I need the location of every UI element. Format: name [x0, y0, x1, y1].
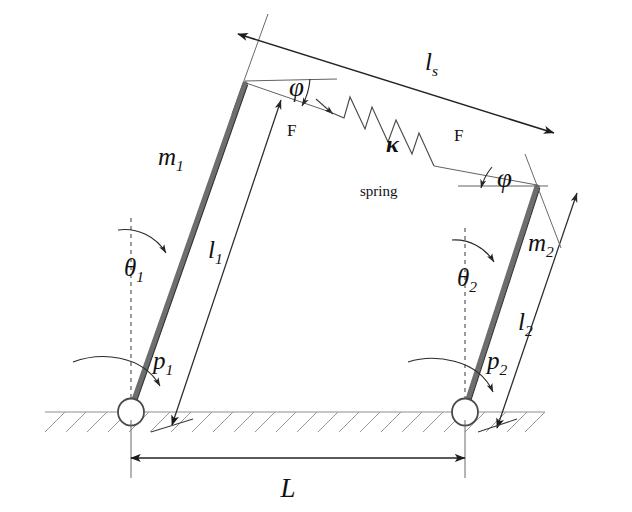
L-dimension-group: L — [131, 420, 465, 503]
spring-coil — [330, 97, 434, 166]
rod-left — [131, 84, 245, 409]
ls-extension-left — [232, 14, 268, 114]
rod-left-edge — [134, 85, 248, 410]
force-left-label: F — [287, 121, 296, 140]
spring-connector-left — [246, 83, 330, 112]
diagram-canvas: θ1 p1 m1 l1 — [0, 0, 632, 512]
phi-right-arc — [481, 167, 492, 188]
p2-label: p2 — [485, 347, 508, 378]
theta1-arc — [118, 230, 166, 253]
theta1-label: θ1 — [124, 254, 144, 285]
pendulum-spring-figure: θ1 p1 m1 l1 — [0, 0, 632, 512]
phi-angle-group: φ φ — [289, 72, 512, 193]
phi-right-label: φ — [497, 163, 512, 193]
spring-word-label: spring — [360, 183, 398, 199]
spring-constant-label: κ — [386, 131, 400, 157]
l2-label: l2 — [518, 308, 533, 339]
theta2-label: θ2 — [457, 264, 477, 295]
m1-label: m1 — [158, 143, 184, 174]
L-label: L — [279, 473, 295, 503]
l1-tick-bottom — [151, 419, 193, 432]
p1-label: p1 — [151, 347, 173, 378]
force-right-label: F — [454, 126, 463, 145]
ls-label: ls — [425, 48, 438, 79]
right-pendulum-group: θ2 p2 m2 l2 — [408, 154, 577, 432]
theta2-arc — [452, 240, 494, 262]
phi-left-label: φ — [289, 72, 304, 102]
l1-dimension-arrow — [172, 100, 281, 425]
l1-label: l1 — [208, 236, 223, 267]
m2-label: m2 — [528, 229, 554, 260]
ls-dimension-arrow — [238, 34, 554, 133]
ls-dimension-group: ls — [238, 34, 554, 133]
